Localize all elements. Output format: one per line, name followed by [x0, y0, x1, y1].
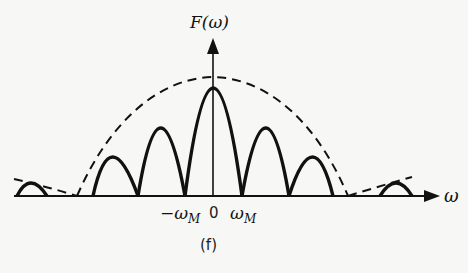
lobe-minus-2 — [138, 128, 185, 196]
y-axis-arrow-icon — [207, 38, 219, 54]
spectrum-diagram: F(ω) ω −ωM 0 ωM (f) — [0, 0, 468, 273]
x-axis-label: ω — [444, 185, 459, 206]
tick-pos-wm: ωM — [230, 203, 257, 226]
x-axis-arrow-icon — [424, 190, 440, 202]
spectrum-lobes — [17, 88, 412, 196]
figure-caption: (f) — [200, 236, 217, 254]
lobe-plus-2 — [242, 128, 289, 196]
y-axis-label: F(ω) — [189, 12, 229, 32]
tick-neg-wm: −ωM — [160, 203, 201, 226]
tick-zero: 0 — [209, 204, 219, 222]
lobe-plus-3 — [289, 157, 333, 196]
lobe-left-side — [17, 183, 47, 196]
lobe-minus-3 — [93, 157, 138, 196]
